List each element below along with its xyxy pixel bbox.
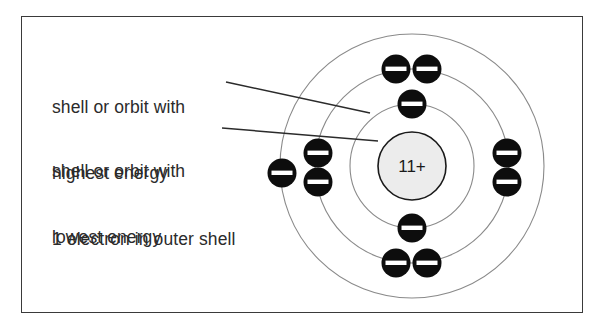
electron <box>304 168 333 197</box>
electron <box>413 55 442 84</box>
electron <box>493 139 522 168</box>
atom-shell-diagram: 11+ <box>0 0 606 328</box>
electron <box>493 168 522 197</box>
label-outer-shell-electron: 1 electron in outer shell <box>52 184 235 294</box>
label-highest-energy-line1: shell or orbit with <box>52 96 185 118</box>
leader-line-lowest-energy <box>222 128 378 141</box>
electron <box>398 90 427 119</box>
electron <box>304 139 333 168</box>
electron <box>382 55 411 84</box>
outermost-shell-electrons <box>268 159 297 188</box>
leader-line-highest-energy <box>226 82 370 113</box>
electron <box>268 159 297 188</box>
label-outer-shell-electron-text: 1 electron in outer shell <box>52 228 235 250</box>
electron <box>413 249 442 278</box>
leader-lines <box>222 82 378 141</box>
electron <box>382 249 411 278</box>
nucleus-charge-label: 11+ <box>398 157 426 176</box>
nucleus: 11+ <box>378 132 446 200</box>
electron <box>398 214 427 243</box>
label-lowest-energy-line1: shell or orbit with <box>52 160 185 182</box>
